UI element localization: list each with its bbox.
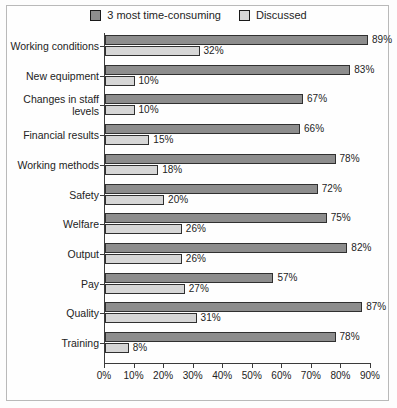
bar-row: 10% xyxy=(105,76,385,86)
bar-row: 83% xyxy=(105,65,385,75)
x-tick-label: 20% xyxy=(153,370,173,381)
legend-swatch-dark-icon xyxy=(90,10,101,21)
bar-row: 87% xyxy=(105,302,385,312)
bar xyxy=(105,343,129,353)
category-label: Training xyxy=(5,338,99,350)
legend-label-time-consuming: 3 most time-consuming xyxy=(107,10,221,21)
category-label: Quality xyxy=(5,308,99,320)
x-tick-label: 50% xyxy=(242,370,262,381)
bar-value-label: 89% xyxy=(372,34,392,46)
bar xyxy=(105,213,327,223)
bar-row: 27% xyxy=(105,284,385,294)
x-tick xyxy=(340,364,341,368)
x-tick xyxy=(252,364,253,368)
bar xyxy=(105,124,300,134)
bar-row: 89% xyxy=(105,35,385,45)
bar-row: 26% xyxy=(105,254,385,264)
bar-row: 75% xyxy=(105,213,385,223)
bar-value-label: 8% xyxy=(133,342,147,354)
category-label: Output xyxy=(5,249,99,261)
x-tick xyxy=(222,364,223,368)
bar xyxy=(105,184,318,194)
bar-row: 67% xyxy=(105,94,385,104)
bar-row: 72% xyxy=(105,184,385,194)
x-tick-label: 30% xyxy=(183,370,203,381)
bar-row: 10% xyxy=(105,105,385,115)
x-tick xyxy=(281,364,282,368)
bar-row: 8% xyxy=(105,343,385,353)
bar-group: Pay57%27% xyxy=(0,273,397,303)
bar-group: Working methods78%18% xyxy=(0,154,397,184)
bar-group: New equipment83%10% xyxy=(0,65,397,95)
bar xyxy=(105,35,368,45)
bar-group: Safety72%20% xyxy=(0,184,397,214)
x-tick xyxy=(134,364,135,368)
bar-group: Changes in staff levels67%10% xyxy=(0,94,397,124)
bar-group: Quality87%31% xyxy=(0,302,397,332)
bar-value-label: 10% xyxy=(139,104,159,116)
bar xyxy=(105,243,347,253)
x-tick xyxy=(104,364,105,368)
category-label: Changes in staff levels xyxy=(5,94,99,117)
bar-value-label: 32% xyxy=(204,45,224,57)
x-tick-label: 40% xyxy=(212,370,232,381)
bar-value-label: 20% xyxy=(168,194,188,206)
bar xyxy=(105,46,200,56)
category-label: Safety xyxy=(5,190,99,202)
bar xyxy=(105,332,336,342)
bar-value-label: 82% xyxy=(351,242,371,254)
category-label: Working conditions xyxy=(5,41,99,53)
bar-value-label: 67% xyxy=(307,93,327,105)
bar-value-label: 10% xyxy=(139,75,159,87)
legend-entry-time-consuming: 3 most time-consuming xyxy=(90,10,221,21)
bar xyxy=(105,165,158,175)
category-label: Working methods xyxy=(5,160,99,172)
bar xyxy=(105,284,185,294)
chart-legend: 3 most time-consuming Discussed xyxy=(0,10,397,21)
bar-value-label: 15% xyxy=(153,134,173,146)
bar-value-label: 66% xyxy=(304,123,324,135)
legend-entry-discussed: Discussed xyxy=(239,10,307,21)
bar-row: 31% xyxy=(105,313,385,323)
x-tick xyxy=(311,364,312,368)
bar-row: 20% xyxy=(105,195,385,205)
bar xyxy=(105,273,273,283)
bar xyxy=(105,224,182,234)
bar xyxy=(105,94,303,104)
bar-value-label: 75% xyxy=(331,212,351,224)
category-label: Financial results xyxy=(5,130,99,142)
bar-value-label: 26% xyxy=(186,223,206,235)
bar-value-label: 87% xyxy=(366,301,386,313)
bar-value-label: 83% xyxy=(354,64,374,76)
bar-row: 26% xyxy=(105,224,385,234)
bar xyxy=(105,302,362,312)
bar-row: 57% xyxy=(105,273,385,283)
legend-label-discussed: Discussed xyxy=(256,10,307,21)
bar xyxy=(105,65,350,75)
bar xyxy=(105,254,182,264)
bar-value-label: 78% xyxy=(340,331,360,343)
bar xyxy=(105,313,197,323)
bar-row: 78% xyxy=(105,332,385,342)
x-tick-label: 60% xyxy=(271,370,291,381)
bar-value-label: 72% xyxy=(322,183,342,195)
category-label: Welfare xyxy=(5,219,99,231)
bar xyxy=(105,76,135,86)
bar-row: 32% xyxy=(105,46,385,56)
plot-area: Working conditions89%32%New equipment83%… xyxy=(0,33,397,365)
x-tick xyxy=(163,364,164,368)
legend-swatch-light-icon xyxy=(239,10,250,21)
bar-group: Output82%26% xyxy=(0,243,397,273)
bar-group: Training78%8% xyxy=(0,332,397,362)
bar xyxy=(105,105,135,115)
x-tick xyxy=(193,364,194,368)
x-tick-label: 70% xyxy=(301,370,321,381)
bar-value-label: 31% xyxy=(201,312,221,324)
bar-value-label: 57% xyxy=(277,272,297,284)
bar-value-label: 26% xyxy=(186,253,206,265)
bar-group: Financial results66%15% xyxy=(0,124,397,154)
chart-container: 3 most time-consuming Discussed Working … xyxy=(0,0,397,408)
x-tick-label: 80% xyxy=(330,370,350,381)
x-axis-ticks: 0%10%20%30%40%50%60%70%80%90% xyxy=(0,364,397,390)
x-tick-label: 10% xyxy=(124,370,144,381)
